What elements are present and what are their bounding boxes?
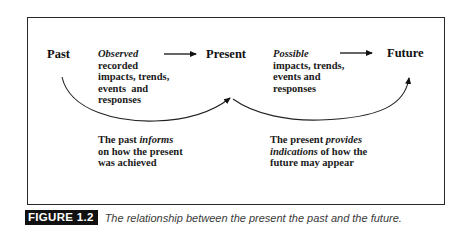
possible-line: responses — [273, 83, 344, 95]
possible-line: events and — [273, 71, 344, 83]
note-text: was achieved — [98, 157, 183, 169]
note-text: on how the present — [98, 146, 183, 158]
observed-line: responses — [98, 94, 169, 106]
informs-emphasis: informs — [139, 134, 173, 145]
possible-emphasis: Possible — [273, 48, 309, 59]
figure-caption-text: The relationship between the present the… — [105, 212, 402, 224]
observed-emphasis: Observed — [98, 48, 138, 59]
possible-line: impacts, trends, — [273, 60, 344, 72]
observed-line: impacts, trends, — [98, 71, 169, 83]
observed-line: recorded — [98, 60, 169, 72]
node-future: Future — [387, 47, 424, 60]
note-text: The present — [270, 134, 326, 145]
note-text: of how the — [318, 146, 367, 157]
observed-line: events and — [98, 83, 169, 95]
figure-caption: FIGURE 1.2 The relationship between the … — [25, 210, 402, 225]
arrows-layer — [0, 0, 472, 232]
provides-emphasis: provides — [326, 134, 362, 145]
possible-block: Possible impacts, trends, events and res… — [273, 48, 344, 94]
present-provides-note: The present provides indications of how … — [270, 134, 367, 169]
past-informs-note: The past informs on how the present was … — [98, 134, 183, 169]
indications-emphasis: indications — [270, 146, 318, 157]
note-text: future may appear — [270, 157, 367, 169]
note-text: The past — [98, 134, 139, 145]
node-past: Past — [47, 48, 70, 61]
observed-block: Observed recorded impacts, trends, event… — [98, 48, 169, 106]
figure-label: FIGURE 1.2 — [25, 210, 98, 225]
node-present: Present — [206, 48, 246, 61]
